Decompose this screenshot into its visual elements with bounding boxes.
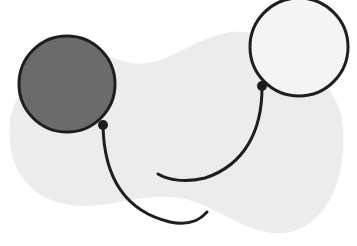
light-balloon <box>250 0 348 96</box>
balloons-illustration <box>0 0 357 246</box>
light-balloon-knot <box>257 81 267 91</box>
dark-balloon-knot <box>98 120 108 130</box>
illustration <box>0 0 357 246</box>
dark-balloon <box>19 36 115 132</box>
